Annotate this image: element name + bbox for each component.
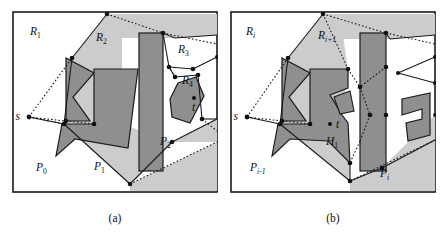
figure-container: s t R1 R2 R3 R4 P0 P1 P2 [0, 0, 444, 250]
panel-a-canvas: s t R1 R2 R3 R4 P0 P1 P2 [12, 11, 218, 193]
obstacle-center-bar [139, 33, 163, 171]
panel-b-canvas: s t Ri Ri+1 Pi-1 Pi H1 [230, 11, 436, 193]
caption-a: (a) [85, 212, 145, 224]
region-top-right-fill [122, 14, 217, 38]
point-s-dot [27, 115, 32, 120]
panel-a: s t R1 R2 R3 R4 P0 P1 P2 [12, 11, 218, 193]
point-s-label-b: s [234, 110, 239, 122]
obstacle-center-bar-b [360, 33, 386, 171]
point-t-dot [192, 96, 196, 100]
point-t-dot-b [328, 122, 332, 126]
caption-b: (b) [303, 212, 363, 224]
point-s-label: s [16, 110, 21, 122]
panel-b: s t Ri Ri+1 Pi-1 Pi H1 [230, 11, 436, 193]
point-s-dot-b [245, 115, 250, 120]
